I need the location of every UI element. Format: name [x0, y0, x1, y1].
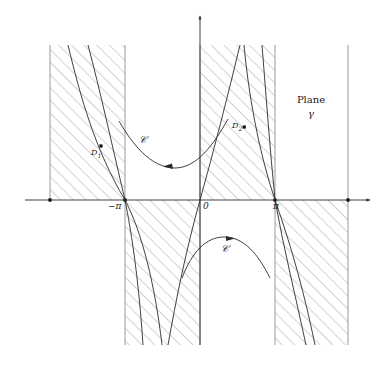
- point-label-d1: D1: [91, 149, 101, 159]
- hatched-strip-upper-left: [50, 45, 125, 200]
- x-tick-label-pi: π: [273, 202, 279, 211]
- contour-upper-direction-arrow: [163, 163, 173, 169]
- point-label-d2: D2: [232, 122, 242, 132]
- diagram-svg: [0, 0, 392, 366]
- contour-label-lower: 𝒞: [221, 244, 228, 254]
- point-marker-d2: [243, 125, 246, 128]
- point-label-d1-subscript: 1: [97, 152, 101, 159]
- figure-canvas: −π 0 π D1 D2 𝒞 𝒞 Plane γ: [0, 0, 392, 366]
- x-tick-label-zero: 0: [203, 202, 209, 211]
- point-label-d2-subscript: 2: [238, 125, 242, 132]
- plane-label: Plane: [289, 95, 333, 105]
- contour-lower-direction-arrow: [226, 236, 235, 241]
- hatched-strip-lower-right: [275, 200, 348, 345]
- point-marker-d1: [99, 144, 102, 147]
- plane-gamma-symbol: γ: [289, 109, 333, 119]
- x-tick-label-neg-pi: −π: [108, 202, 121, 211]
- contour-label-upper: 𝒞: [139, 135, 146, 145]
